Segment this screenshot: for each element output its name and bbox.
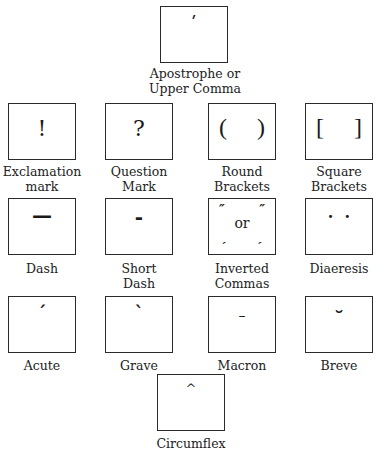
inverted-low-left-glyph: ˏ (223, 229, 227, 245)
apostrophe-glyph: ʹ (161, 13, 227, 32)
inverted-commas-box: ″ ″ or ˏ ˏ (208, 198, 276, 255)
round-brackets-glyph: ( ) (209, 114, 275, 141)
square-brackets-label: Square Brackets (289, 164, 383, 194)
round-brackets-label: Round Brackets (192, 164, 292, 194)
apostrophe-label: Apostrophe or Upper Comma (135, 66, 255, 96)
question-box: ? (105, 103, 173, 160)
acute-label: Acute (0, 358, 92, 373)
dash-label: Dash (0, 261, 92, 276)
circumflex-glyph: ^ (158, 381, 224, 396)
short-dash-glyph: - (106, 205, 172, 229)
breve-box: ˘ (305, 296, 373, 353)
inverted-or-text: or (209, 215, 275, 231)
square-brackets-box: [ ] (305, 103, 373, 160)
breve-glyph: ˘ (306, 307, 372, 331)
question-label: Question Mark (89, 164, 189, 194)
circumflex-label: Circumflex (141, 436, 241, 451)
breve-label: Breve (289, 358, 383, 373)
grave-glyph: ˋ (106, 303, 172, 324)
question-glyph: ? (106, 116, 172, 141)
inverted-low-right-glyph: ˏ (259, 229, 263, 245)
macron-label: Macron (192, 358, 292, 373)
exclamation-box: ! (8, 103, 76, 160)
diaeresis-box: · · (305, 198, 373, 255)
grave-box: ˋ (105, 296, 173, 353)
short-dash-label: Short Dash (89, 261, 189, 291)
diaeresis-label: Diaeresis (289, 261, 383, 276)
acute-box: ˊ (8, 296, 76, 353)
macron-box: – (208, 296, 276, 353)
short-dash-box: - (105, 198, 173, 255)
dash-box: — (8, 198, 76, 255)
inverted-commas-label: Inverted Commas (192, 261, 292, 291)
round-brackets-box: ( ) (208, 103, 276, 160)
square-brackets-glyph: [ ] (306, 114, 372, 141)
grave-label: Grave (89, 358, 189, 373)
acute-glyph: ˊ (9, 303, 75, 324)
diaeresis-glyph: · · (306, 207, 372, 226)
dash-glyph: — (9, 203, 75, 227)
exclamation-label: Exclamation mark (0, 164, 92, 194)
apostrophe-box: ʹ (160, 6, 228, 63)
circumflex-box: ^ (157, 374, 225, 431)
macron-glyph: – (209, 307, 275, 323)
exclamation-glyph: ! (9, 116, 75, 141)
